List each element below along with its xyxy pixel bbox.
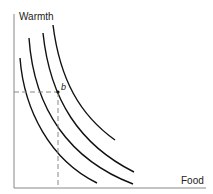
x-axis-label: Food	[181, 175, 204, 186]
point-b-label: b	[61, 82, 66, 92]
indifference-diagram	[0, 0, 213, 194]
point-b-marker	[56, 90, 59, 93]
y-axis-label: Warmth	[19, 11, 54, 22]
